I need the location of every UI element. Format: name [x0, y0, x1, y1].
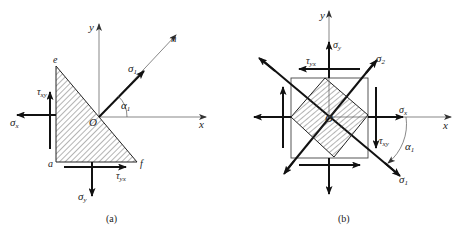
- sigma-x-label-b: σx: [399, 104, 408, 117]
- sigma1-arrow-b-opposite: [259, 58, 275, 71]
- tau-xy-label-b: τxy: [379, 135, 390, 148]
- alpha1-label: α1: [121, 99, 130, 113]
- panel-b: y x O σy σ2 τyx σx τxy α1 σ1 (b): [254, 9, 451, 225]
- sigma2-label-b: σ2: [376, 52, 385, 66]
- alpha1-arc-b: [388, 117, 407, 163]
- panel-a: y x n O e a f σ1 α1 σx τxy τyx σy (a): [10, 21, 206, 225]
- alpha1-label-b: α1: [405, 140, 414, 154]
- sigma1-label: σ1: [128, 62, 137, 76]
- tau-yx-label-b: τyx: [306, 55, 317, 68]
- tau-xy-label: τxy: [37, 86, 48, 99]
- vertex-f-label: f: [140, 158, 144, 169]
- sigma-y-label: σy: [78, 190, 87, 204]
- n-axis-label: n: [171, 32, 177, 44]
- triangle-element: [56, 66, 137, 162]
- x-axis-label-b: x: [442, 119, 448, 131]
- x-axis-label: x: [198, 118, 204, 130]
- panel-b-caption: (b): [338, 213, 350, 225]
- sigma-x-label: σx: [10, 116, 19, 130]
- y-axis-label: y: [88, 21, 94, 33]
- vertex-e-label: e: [53, 54, 58, 65]
- panel-a-caption: (a): [106, 213, 117, 225]
- stress-diagram: y x n O e a f σ1 α1 σx τxy τyx σy (a): [0, 0, 458, 237]
- sigma2-arrow-b-opposite: [284, 161, 294, 174]
- sigma1-label-b: σ1: [399, 173, 408, 187]
- y-axis-label-b: y: [319, 9, 325, 21]
- origin-label-b: O: [325, 112, 333, 124]
- sigma-y-label-b: σy: [333, 39, 342, 52]
- origin-label: O: [89, 116, 97, 128]
- sigma1-arrow-b: [385, 163, 400, 176]
- vertex-a-label: a: [48, 158, 53, 169]
- tau-yx-label: τyx: [116, 170, 127, 183]
